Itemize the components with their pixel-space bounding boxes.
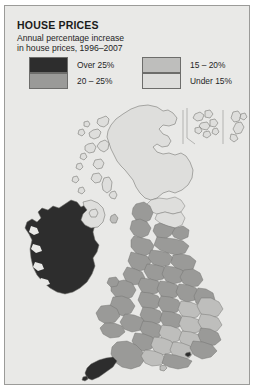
region-wales-anglesey — [107, 277, 119, 287]
region-outer-hebrides-north — [97, 116, 109, 127]
region-shetland-islands — [230, 111, 247, 142]
region-scotland-west-islet-e — [72, 176, 79, 183]
legend-label-over-25: Over 25% — [77, 60, 114, 70]
region-cumbria-south — [130, 219, 151, 238]
legend-label-15-20: 15 – 20% — [190, 60, 225, 70]
region-scotland-mainland — [107, 105, 193, 200]
region-cornwall — [85, 357, 117, 380]
region-scotland-west-islet-b — [78, 129, 85, 136]
region-scotland-west-islet-c — [80, 153, 87, 160]
orkney-inset-pointer — [187, 108, 195, 144]
region-orkney-islands — [193, 110, 219, 138]
map-area — [5, 92, 249, 384]
region-leicestershire — [158, 296, 182, 314]
page-title: HOUSE PRICES — [17, 19, 197, 31]
region-kintyre — [102, 177, 112, 193]
legend-label-under-15: Under 15% — [190, 76, 232, 86]
house-prices-map-figure: HOUSE PRICES Annual percentage increase … — [0, 0, 255, 391]
legend-swatch-under-15 — [142, 73, 181, 89]
region-scilly-islet — [82, 376, 88, 381]
legend-swatch-15-20 — [142, 57, 181, 73]
legend: Over 25% 20 – 25% 15 – 20% Under 15% — [17, 57, 245, 90]
region-islay-jura — [91, 173, 102, 183]
region-arran — [109, 191, 117, 199]
region-outer-hebrides-mid — [89, 129, 101, 139]
region-isle-of-wight — [160, 365, 167, 371]
figure-frame: HOUSE PRICES Annual percentage increase … — [4, 5, 250, 385]
region-inner-hebrides-mull — [93, 159, 104, 169]
region-wales-south-west — [100, 323, 125, 338]
region-isle-of-skye — [97, 140, 109, 152]
region-scotland-west-islet-f — [78, 187, 85, 194]
legend-label-20-25: 20 – 25% — [77, 76, 112, 86]
title-block: HOUSE PRICES Annual percentage increase … — [17, 19, 197, 53]
region-outer-hebrides-south — [85, 143, 96, 153]
region-staffordshire — [138, 292, 162, 310]
region-scotland-west-islet-d — [76, 163, 83, 170]
legend-swatch-over-25 — [29, 57, 68, 73]
british-isles-choropleth — [5, 92, 249, 384]
region-scotland-west-islet-a — [84, 121, 90, 127]
region-isle-of-man — [110, 214, 118, 223]
legend-swatch-20-25 — [29, 73, 68, 89]
map-subtitle: Annual percentage increase in house pric… — [17, 34, 197, 53]
